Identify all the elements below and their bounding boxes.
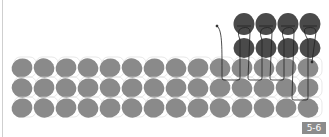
base-bead-rows <box>9 55 322 120</box>
added-bead <box>278 13 299 35</box>
beading-diagram <box>0 0 329 137</box>
added-bead <box>300 38 321 58</box>
base-bead <box>9 96 34 120</box>
added-bead <box>234 38 255 58</box>
added-bead-rows <box>234 13 321 58</box>
added-bead <box>256 13 277 35</box>
added-bead <box>278 38 299 58</box>
added-bead <box>300 13 321 35</box>
base-bead <box>9 56 34 80</box>
added-bead <box>234 13 255 35</box>
added-bead <box>256 38 277 58</box>
figure-label: 5-6 <box>302 122 326 134</box>
